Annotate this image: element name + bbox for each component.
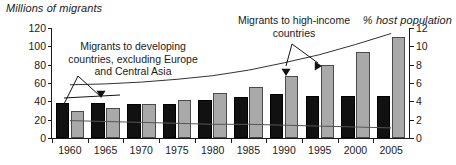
callout-developing-countries: Migrants to developing countries, exclud… (48, 40, 218, 78)
leader-developing-a (64, 76, 78, 104)
leader-high-income-b (286, 44, 292, 66)
chart-container: Millions of migrants % host population 0… (0, 0, 456, 165)
leader-developing-b (78, 76, 100, 96)
arrow-developing-down (60, 105, 69, 112)
arrow-high-income-right (315, 62, 322, 71)
callout-high-income-countries: Migrants to high-income countries (224, 14, 364, 39)
leader-developing-horizontal (64, 95, 120, 98)
arrow-high-income-down (282, 69, 291, 76)
leader-high-income (292, 44, 318, 63)
